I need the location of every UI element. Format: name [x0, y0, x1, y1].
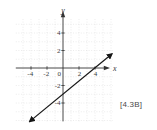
y-axis-label: y — [60, 6, 65, 15]
x-axis-arrow — [104, 66, 110, 70]
y-tick-label: -2 — [55, 82, 61, 90]
x-tick-label: 0 — [58, 70, 62, 78]
x-tick-label: -4 — [27, 70, 33, 78]
coordinate-plane: -4-202442-2-4xy — [14, 4, 120, 126]
figure-tag: [4.3B] — [120, 100, 142, 109]
x-tick-label: -2 — [43, 70, 49, 78]
textbook-figure: -4-202442-2-4xy [4.3B] — [0, 0, 157, 130]
y-tick-label: 2 — [57, 47, 61, 55]
x-axis-label: x — [112, 64, 117, 73]
x-tick-label: 2 — [78, 70, 82, 78]
y-tick-label: 4 — [57, 29, 61, 37]
x-tick-label: 4 — [94, 70, 98, 78]
